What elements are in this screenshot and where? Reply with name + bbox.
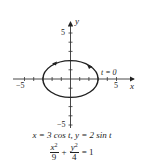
y-tick-label-5: 5 bbox=[61, 28, 65, 37]
parametric-x: x = 3 cos t, bbox=[32, 130, 72, 140]
x-tick-label-5: 5 bbox=[114, 81, 118, 90]
t0-annotation: t = 0 bbox=[101, 68, 117, 77]
y-tick-label-neg5: −5 bbox=[57, 120, 66, 129]
fraction-x: x2 9 bbox=[50, 141, 59, 162]
den-x: 9 bbox=[51, 153, 58, 162]
y-axis-label: y bbox=[75, 16, 79, 26]
plus-sign: + bbox=[62, 147, 67, 157]
den-y: 4 bbox=[71, 153, 78, 162]
exp-x: 2 bbox=[55, 142, 58, 148]
exp-y: 2 bbox=[75, 142, 78, 148]
equals-one: = 1 bbox=[82, 147, 94, 157]
parametric-y: y = 2 sin t bbox=[75, 130, 112, 140]
fraction-y: y2 4 bbox=[70, 141, 79, 162]
x-axis-label: x bbox=[130, 81, 134, 91]
cartesian-equation: x2 9 + y2 4 = 1 bbox=[0, 141, 144, 162]
parametric-equations: x = 3 cos t, y = 2 sin t bbox=[0, 130, 144, 140]
x-tick-label-neg5: −5 bbox=[16, 81, 25, 90]
